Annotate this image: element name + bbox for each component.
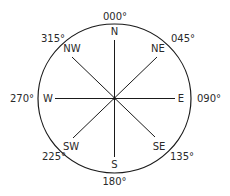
- line-northwest-southeast: [72, 57, 155, 137]
- bearing-045: 045°: [171, 33, 195, 44]
- compass-diagram: N NE E SE S SW W NW 000° 045° 090° 135° …: [0, 0, 230, 196]
- bearing-135: 135°: [170, 151, 194, 162]
- label-nw: NW: [63, 43, 80, 54]
- bearing-090: 090°: [197, 93, 221, 104]
- bearing-000: 000°: [103, 11, 127, 22]
- label-s: S: [111, 159, 117, 170]
- label-n: N: [111, 26, 118, 37]
- center-point: [113, 97, 116, 100]
- bearing-270: 270°: [10, 93, 34, 104]
- label-e: E: [178, 93, 184, 104]
- label-ne: NE: [151, 43, 165, 54]
- bearing-225: 225°: [42, 151, 66, 162]
- label-w: W: [43, 93, 53, 104]
- label-se: SE: [153, 141, 166, 152]
- bearing-180: 180°: [102, 176, 126, 187]
- bearing-315: 315°: [41, 33, 65, 44]
